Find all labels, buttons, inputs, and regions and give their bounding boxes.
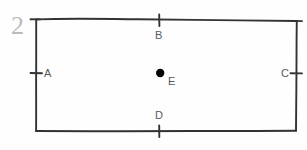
figure-canvas: 2 A B C D E <box>0 0 307 150</box>
rectangle-right-edge <box>296 21 297 131</box>
label-e: E <box>168 76 176 87</box>
label-c: C <box>281 68 289 79</box>
center-point-e-marker <box>156 69 164 77</box>
label-b: B <box>155 30 163 41</box>
rectangle-top-edge <box>36 19 297 21</box>
tick-marks-group <box>31 15 303 138</box>
figure-number: 2 <box>11 13 24 39</box>
rectangle-outline <box>36 19 297 131</box>
label-a: A <box>44 68 52 79</box>
label-d: D <box>155 110 163 121</box>
